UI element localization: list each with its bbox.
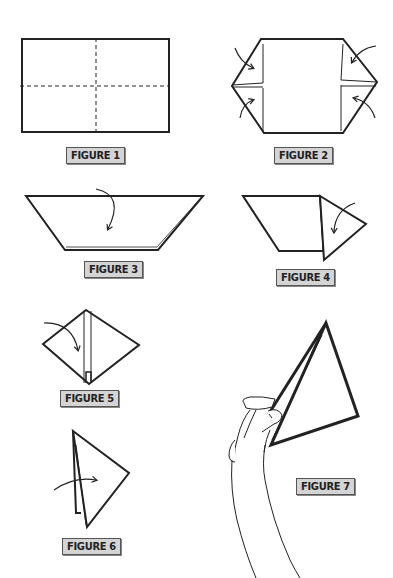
figure-2-label: FIGURE 2	[274, 147, 333, 164]
figure-7-label: FIGURE 7	[296, 478, 355, 495]
figure-4-drawing	[243, 196, 366, 260]
figure-6-drawing	[54, 431, 129, 527]
figure-1-label: FIGURE 1	[66, 147, 125, 164]
figure-1-drawing	[20, 38, 170, 135]
figure-6-label: FIGURE 6	[62, 538, 121, 555]
figure-3-label: FIGURE 3	[84, 261, 143, 278]
figure-5-drawing	[43, 310, 139, 384]
figure-7-drawing	[229, 323, 358, 578]
figure-2-drawing	[232, 39, 377, 133]
figure-3-drawing	[26, 189, 203, 250]
figure-5-label: FIGURE 5	[60, 390, 119, 407]
figure-4-label: FIGURE 4	[276, 269, 335, 286]
